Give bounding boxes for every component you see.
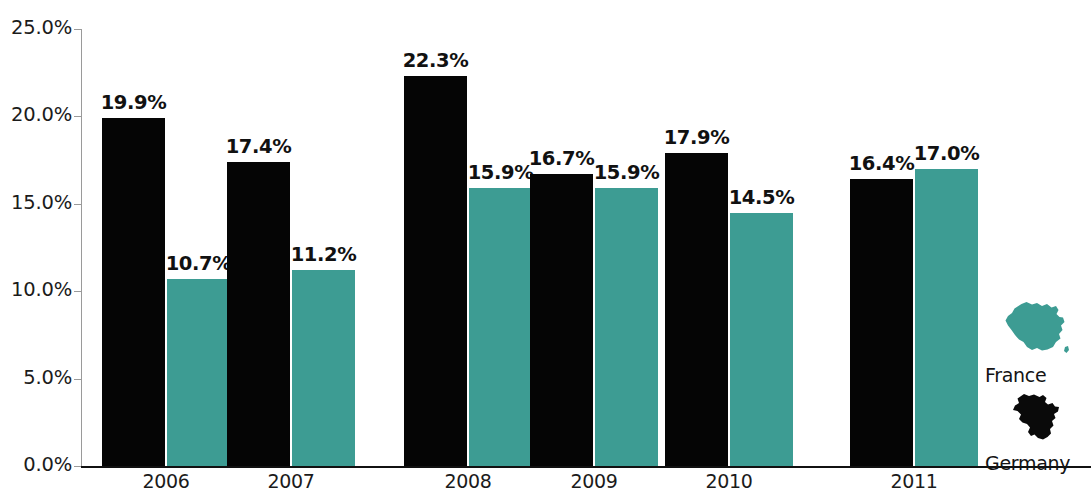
y-axis-tick-label: 15.0% [0,191,72,214]
bar-value-label-germany-2006: 19.9% [92,91,175,114]
bar-france-2006 [167,279,230,466]
y-axis-tick-label: 25.0% [0,16,72,39]
bar-germany-2009 [530,174,593,466]
x-axis-line [81,466,1091,468]
bar-france-2011 [915,169,978,466]
bar-germany-2008 [404,76,467,466]
bar-germany-2006 [102,118,165,466]
bar-germany-2010 [665,153,728,466]
x-axis-tick-label: 2009 [530,470,658,492]
bar-value-label-france-2009: 15.9% [585,161,668,184]
legend-label-france: France [985,364,1091,386]
x-axis-tick-label: 2008 [404,470,532,492]
bar-germany-2011 [850,179,913,466]
y-axis-tick-label: 5.0% [0,366,72,389]
x-axis-tick-label: 2006 [102,470,230,492]
germany-map-icon [1001,392,1075,450]
y-axis-tick [74,116,82,117]
bar-germany-2007 [227,162,290,466]
y-axis-tick-label: 20.0% [0,103,72,126]
legend-entry-france: France [985,300,1091,386]
y-axis-line [81,29,82,466]
y-axis-tick-label: 0.0% [0,453,72,476]
legend-entry-germany: Germany [985,392,1091,474]
bar-value-label-france-2007: 11.2% [282,243,365,266]
y-axis-tick [74,291,82,292]
bar-chart: 0.0%5.0%10.0%15.0%20.0%25.0% 20062007200… [0,0,1091,494]
y-axis-tick-label: 10.0% [0,278,72,301]
bar-france-2008 [469,188,532,466]
bar-france-2010 [730,213,793,466]
y-axis-tick [74,204,82,205]
legend-label-germany: Germany [985,452,1091,474]
bar-france-2007 [292,270,355,466]
bar-france-2009 [595,188,658,466]
chart-legend: France Germany [985,300,1091,474]
y-axis-tick [74,29,82,30]
bar-value-label-france-2011: 17.0% [905,142,988,165]
bar-value-label-germany-2007: 17.4% [217,135,300,158]
x-axis-tick-label: 2011 [850,470,978,492]
bar-value-label-germany-2008: 22.3% [394,49,477,72]
x-axis-tick-label: 2010 [665,470,793,492]
bar-value-label-germany-2010: 17.9% [655,126,738,149]
x-axis-tick-label: 2007 [227,470,355,492]
y-axis-tick [74,379,82,380]
bar-value-label-france-2010: 14.5% [720,186,803,209]
france-map-icon [1001,300,1075,362]
